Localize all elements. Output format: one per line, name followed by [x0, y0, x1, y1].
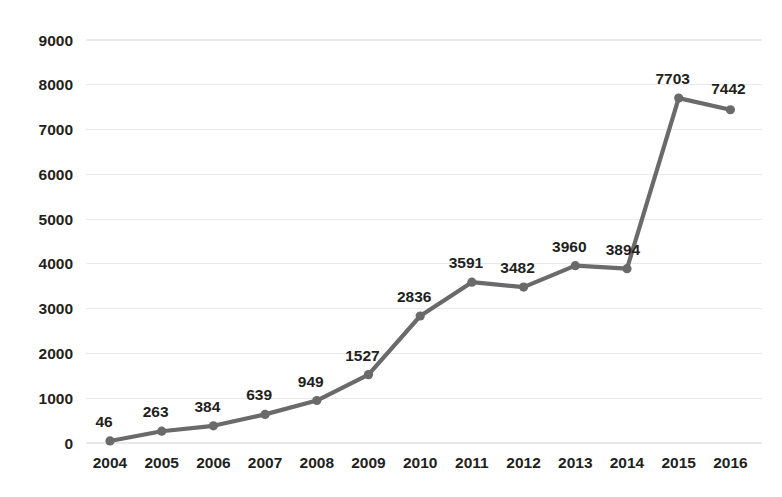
y-axis-tick-label: 2000 [39, 345, 73, 362]
x-axis-tick-label: 2014 [610, 454, 645, 471]
data-point-label: 3894 [606, 241, 641, 258]
x-axis-tick-label: 2009 [351, 454, 386, 471]
data-point-label: 3960 [552, 238, 586, 255]
x-axis-tick-label: 2005 [144, 454, 179, 471]
x-axis-tick-label: 2016 [713, 454, 748, 471]
data-point-label: 46 [95, 413, 113, 430]
data-point-marker [519, 282, 528, 291]
x-axis-tick-label: 2011 [455, 454, 489, 471]
data-point-label: 949 [298, 373, 324, 390]
data-point-marker [105, 436, 114, 445]
data-point-marker [571, 261, 580, 270]
y-axis-tick-label: 6000 [39, 166, 73, 183]
data-point-marker [364, 370, 373, 379]
data-point-marker [674, 93, 683, 102]
data-point-marker [157, 427, 166, 436]
y-axis-tick-label: 0 [64, 435, 73, 452]
data-point-label: 2836 [397, 288, 432, 305]
data-point-label: 7703 [655, 70, 690, 87]
y-axis-tick-label: 1000 [39, 390, 73, 407]
x-axis-tick-label: 2015 [661, 454, 696, 471]
x-axis-tick-label: 2006 [196, 454, 231, 471]
y-axis-tick-label: 3000 [39, 300, 73, 317]
x-axis-tick-label: 2004 [93, 454, 128, 471]
data-point-marker [416, 311, 425, 320]
data-point-label: 384 [194, 398, 220, 415]
data-point-marker [261, 410, 270, 419]
data-point-label: 3482 [500, 259, 534, 276]
line-chart-figure: 0100020003000400050006000700080009000 20… [0, 0, 782, 497]
data-point-label: 263 [143, 403, 169, 420]
y-axis-tick-label: 7000 [39, 121, 73, 138]
x-axis-tick-label: 2010 [403, 454, 437, 471]
x-axis-tick-label: 2013 [558, 454, 593, 471]
x-axis-tick-label: 2007 [248, 454, 282, 471]
data-point-marker [467, 278, 476, 287]
data-point-label: 639 [246, 386, 272, 403]
data-point-marker [622, 264, 631, 273]
data-point-label: 7442 [711, 80, 745, 97]
y-axis-tick-label: 9000 [39, 32, 73, 49]
data-point-marker [209, 421, 218, 430]
y-axis-tick-label: 4000 [39, 255, 73, 272]
data-point-marker [312, 396, 321, 405]
chart-canvas: 0100020003000400050006000700080009000 20… [0, 0, 782, 497]
data-point-label: 3591 [449, 254, 484, 271]
y-axis-tick-label: 8000 [39, 76, 73, 93]
x-axis-tick-label: 2008 [300, 454, 335, 471]
x-axis-tick-label: 2012 [506, 454, 540, 471]
data-point-label: 1527 [345, 347, 379, 364]
y-axis-tick-label: 5000 [39, 211, 73, 228]
data-point-marker [726, 105, 735, 114]
